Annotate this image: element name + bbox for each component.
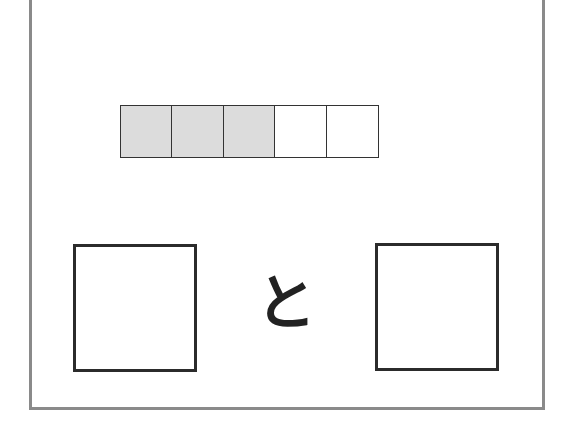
answer-box-right[interactable] [375, 243, 499, 371]
answer-box-left[interactable] [73, 244, 197, 372]
connector-text: と [256, 268, 316, 338]
fraction-cell-shaded [172, 106, 223, 157]
fraction-cell-empty [275, 106, 326, 157]
fraction-cell-empty [327, 106, 378, 157]
fraction-bar [120, 105, 379, 158]
fraction-cell-shaded [121, 106, 172, 157]
fraction-cell-shaded [224, 106, 275, 157]
